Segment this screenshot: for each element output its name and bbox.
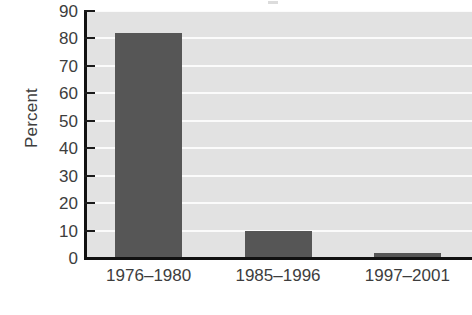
y-axis-tick-label: 90 [26, 3, 78, 20]
y-axis-tick-label: 30 [26, 167, 78, 184]
y-axis-tick-mark [84, 175, 95, 177]
plot-area [84, 11, 472, 258]
y-axis-tick-mark [84, 92, 95, 94]
bar [115, 33, 182, 258]
y-axis-tick-mark [84, 37, 95, 39]
x-axis-tick-label: 1997–2001 [365, 266, 450, 286]
y-axis-tick-label: 0 [26, 250, 78, 267]
x-axis-tick-label: 1985–1996 [235, 266, 320, 286]
x-axis-tick-label: 1976–1980 [106, 266, 191, 286]
y-axis-tick-label: 40 [26, 140, 78, 157]
y-axis-tick-mark [84, 65, 95, 67]
y-axis-tick-mark [84, 230, 95, 232]
y-axis-tick-mark [84, 202, 95, 204]
y-axis-tick-mark [84, 10, 95, 12]
y-axis-tick-label: 80 [26, 30, 78, 47]
y-axis-tick-mark [84, 147, 95, 149]
x-axis-tick-labels: 1976–19801985–19961997–2001 [84, 266, 472, 306]
y-axis-tick-label: 70 [26, 57, 78, 74]
y-axis-tick-label: 20 [26, 195, 78, 212]
y-axis-tick-label: 10 [26, 222, 78, 239]
bar-chart-figure: Percent 0102030405060708090 1976–1980198… [0, 0, 472, 315]
x-axis-line [84, 257, 472, 260]
y-axis-tick-labels: 0102030405060708090 [26, 0, 78, 315]
y-axis-tick-label: 50 [26, 112, 78, 129]
bar [245, 231, 312, 258]
y-axis-tick-mark [84, 120, 95, 122]
scan-artifact [268, 1, 278, 4]
gridline [84, 11, 472, 12]
y-axis-line [84, 10, 87, 260]
y-axis-tick-label: 60 [26, 85, 78, 102]
